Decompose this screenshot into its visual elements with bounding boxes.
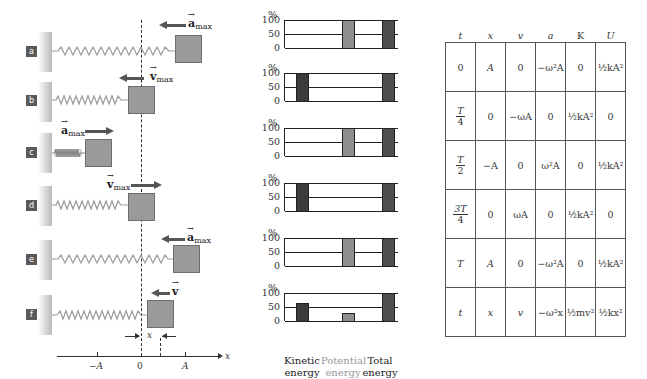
vector-label: →vmax bbox=[150, 70, 173, 84]
cell-u: ½kx² bbox=[596, 288, 626, 337]
cell-u: ½kA² bbox=[596, 43, 626, 92]
kinetic-label: Kineticenergy bbox=[284, 355, 320, 379]
y-tick-100: 100 bbox=[256, 14, 280, 25]
cell-t: 0 bbox=[446, 43, 476, 92]
tick bbox=[185, 352, 186, 357]
plot-area bbox=[284, 73, 398, 101]
spring-compressed bbox=[52, 146, 86, 160]
vector-label: →amax bbox=[61, 124, 85, 138]
y-tick-50: 50 bbox=[256, 191, 280, 202]
x-axis bbox=[57, 356, 220, 357]
mass-block bbox=[175, 35, 202, 63]
wall bbox=[38, 82, 52, 122]
y-tick-0: 0 bbox=[256, 260, 280, 271]
motion-table: t x v a K U 0A0−ω²A0½kA²T40−ωA0½kA²0T2−A… bbox=[445, 29, 626, 337]
cell-k: 0 bbox=[566, 43, 596, 92]
tick-label-neg-a: −A bbox=[89, 361, 103, 371]
cell-a: −ω²x bbox=[536, 288, 566, 337]
panel-label-d: d bbox=[26, 200, 37, 211]
panel-label-f: f bbox=[26, 309, 37, 320]
panel-label-b: b bbox=[26, 95, 37, 106]
cell-k: ½kA² bbox=[566, 92, 596, 141]
wall bbox=[38, 295, 52, 335]
axis-label: x bbox=[225, 351, 230, 361]
panel-label-e: e bbox=[26, 254, 37, 265]
cell-u: 0 bbox=[596, 92, 626, 141]
cell-x: 0 bbox=[476, 190, 506, 239]
kinetic-energy-bar bbox=[296, 183, 309, 212]
cell-t: T2 bbox=[446, 141, 476, 190]
cell-a: 0 bbox=[536, 92, 566, 141]
energy-chart-d: %100500 bbox=[248, 172, 398, 216]
cell-a: ω²A bbox=[536, 141, 566, 190]
total-energy-bar bbox=[382, 293, 395, 322]
vector-label: →amax bbox=[187, 231, 211, 245]
cell-v: v bbox=[506, 288, 536, 337]
cell-x: 0 bbox=[476, 92, 506, 141]
wall bbox=[38, 133, 52, 173]
y-tick-50: 50 bbox=[256, 301, 280, 312]
y-tick-0: 0 bbox=[256, 42, 280, 53]
velocity-arrow bbox=[131, 184, 155, 187]
y-tick-100: 100 bbox=[256, 67, 280, 78]
y-tick-0: 0 bbox=[256, 95, 280, 106]
potential-energy-bar bbox=[342, 238, 355, 267]
y-tick-100: 100 bbox=[256, 287, 280, 298]
energy-chart-b: %100500 bbox=[248, 62, 398, 106]
table-row: TA0−ω²A0½kA² bbox=[446, 239, 626, 288]
cell-u: ½kA² bbox=[596, 239, 626, 288]
cell-v: ωA bbox=[506, 190, 536, 239]
wall bbox=[38, 32, 52, 72]
kinetic-energy-bar bbox=[296, 303, 309, 322]
spring bbox=[52, 198, 128, 212]
potential-energy-bar bbox=[342, 313, 355, 322]
potential-label: Potentialenergy bbox=[321, 355, 365, 379]
total-energy-bar bbox=[382, 20, 395, 49]
plot-area bbox=[284, 183, 398, 211]
vector-label: →v bbox=[172, 285, 178, 299]
panel-label-c: c bbox=[26, 147, 37, 158]
cell-t: T bbox=[446, 239, 476, 288]
table-header: t x v a K U bbox=[446, 29, 626, 43]
cell-k: ½mv² bbox=[566, 288, 596, 337]
y-tick-0: 0 bbox=[256, 150, 280, 161]
cell-v: 0 bbox=[506, 239, 536, 288]
table-row: T2−A0ω²A0½kA² bbox=[446, 141, 626, 190]
displacement-label: x bbox=[147, 330, 152, 340]
cell-t: 3T4 bbox=[446, 190, 476, 239]
cell-a: −ω²A bbox=[536, 43, 566, 92]
total-energy-bar bbox=[382, 238, 395, 267]
table-row: txv−ω²x½mv²½kx² bbox=[446, 288, 626, 337]
y-tick-100: 100 bbox=[256, 122, 280, 133]
table-row: 3T40ωA0½kA²0 bbox=[446, 190, 626, 239]
cell-a: 0 bbox=[536, 190, 566, 239]
velocity-arrow bbox=[126, 77, 144, 80]
cell-x: x bbox=[476, 288, 506, 337]
mass-block bbox=[147, 300, 174, 328]
energy-chart-f: %100500 bbox=[248, 282, 398, 326]
header-u: U bbox=[596, 29, 626, 43]
mass-block bbox=[85, 139, 112, 167]
acceleration-arrow bbox=[85, 130, 107, 133]
table-row: T40−ωA0½kA²0 bbox=[446, 92, 626, 141]
y-tick-0: 0 bbox=[256, 205, 280, 216]
y-tick-50: 50 bbox=[256, 136, 280, 147]
vector-label: →vmax bbox=[107, 178, 130, 192]
kinetic-energy-bar bbox=[296, 73, 309, 102]
total-label: Totalenergy bbox=[362, 355, 398, 379]
table-row: 0A0−ω²A0½kA² bbox=[446, 43, 626, 92]
equilibrium-line bbox=[141, 20, 142, 356]
y-tick-100: 100 bbox=[256, 232, 280, 243]
cell-k: ½kA² bbox=[566, 190, 596, 239]
total-energy-bar bbox=[382, 73, 395, 102]
wall bbox=[38, 186, 52, 226]
energy-chart-a: %100500 bbox=[248, 9, 398, 53]
potential-energy-bar bbox=[342, 128, 355, 157]
cell-k: 0 bbox=[566, 141, 596, 190]
spring bbox=[52, 308, 148, 322]
y-tick-50: 50 bbox=[256, 246, 280, 257]
cell-u: 0 bbox=[596, 190, 626, 239]
acceleration-arrow bbox=[166, 24, 186, 27]
mass-block bbox=[128, 86, 155, 114]
cell-k: 0 bbox=[566, 239, 596, 288]
